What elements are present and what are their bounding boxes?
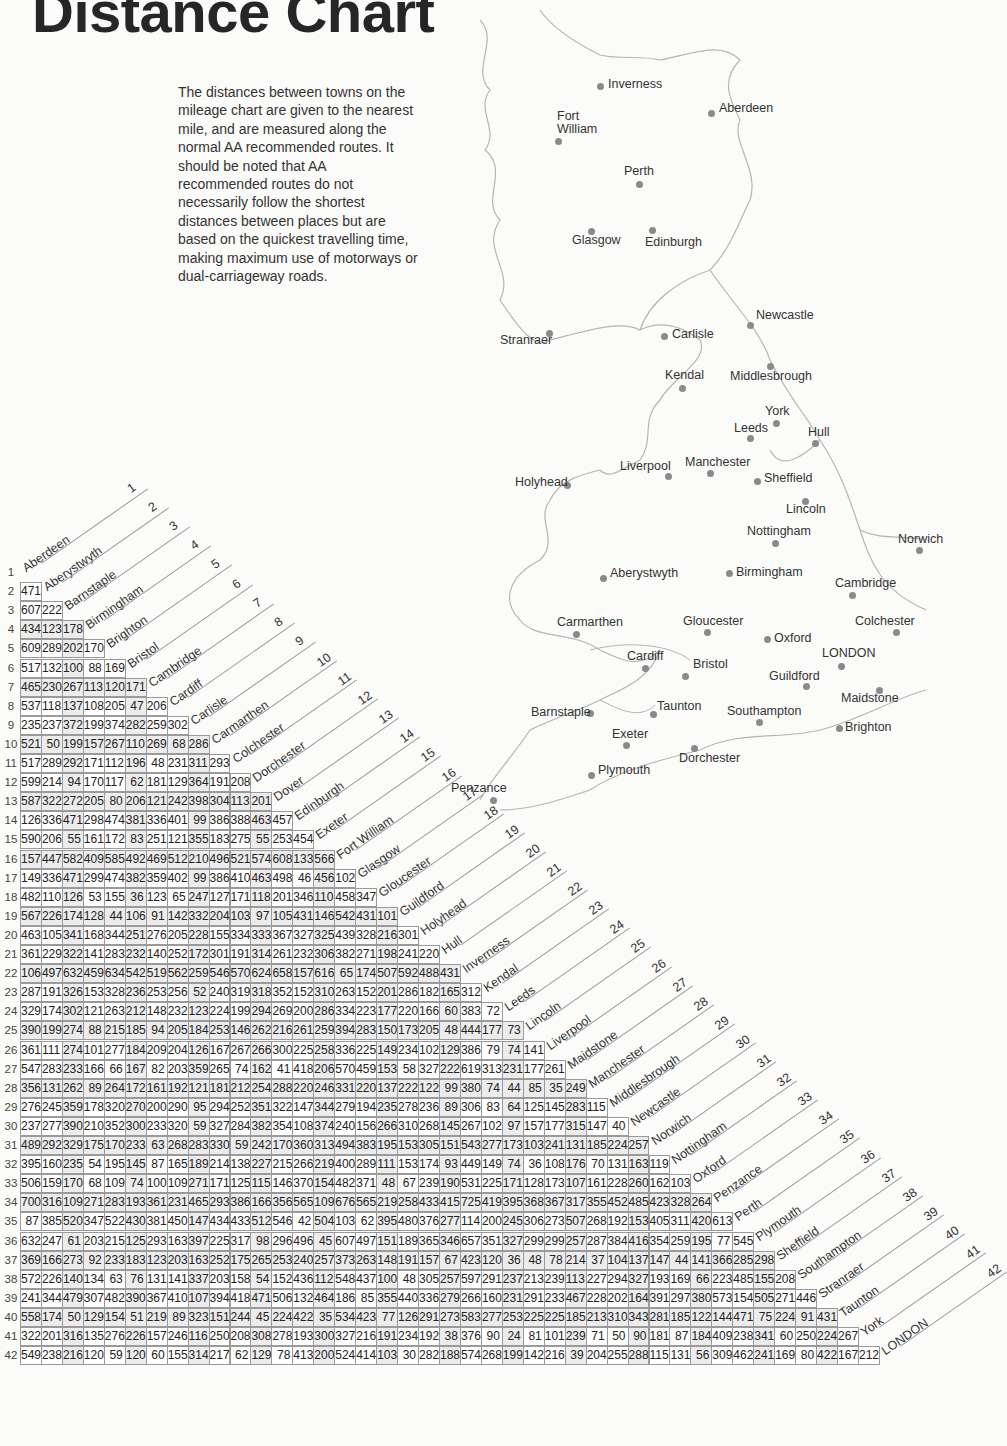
distance-cell: 77 [711, 1232, 733, 1251]
distance-cell: 574 [460, 1346, 482, 1365]
distance-cell: 59 [104, 1346, 126, 1365]
distance-cell: 332 [188, 907, 210, 926]
distance-cell: 44 [502, 1079, 524, 1098]
distance-cell: 68 [167, 735, 189, 754]
column-town-label: Kendal [481, 961, 521, 995]
distance-cell: 257 [565, 1232, 587, 1251]
distance-cell: 359 [62, 1098, 84, 1117]
distance-cell: 337 [188, 1270, 210, 1289]
distance-cell: 105 [271, 907, 293, 926]
distance-cell: 235 [376, 1098, 398, 1117]
distance-cell: 457 [271, 811, 293, 830]
town-marker-icon [650, 711, 657, 718]
column-number: 20 [523, 841, 542, 860]
distance-cell: 147 [649, 1251, 671, 1270]
distance-cell: 273 [62, 1251, 84, 1270]
distance-cell: 64 [502, 1098, 524, 1117]
row-number: 37 [2, 1251, 20, 1270]
column-town-label: Leeds [502, 983, 538, 1014]
distance-cell: 199 [62, 735, 84, 754]
distance-cell: 224 [774, 1308, 796, 1327]
header-divider [900, 1272, 1007, 1347]
column-number: 30 [733, 1032, 752, 1051]
distance-cell: 193 [292, 1327, 314, 1346]
distance-cell: 215 [104, 1232, 126, 1251]
distance-cell: 320 [167, 1117, 189, 1136]
distance-cell: 220 [292, 1079, 314, 1098]
distance-cell: 252 [230, 1098, 252, 1117]
distance-cell: 322 [62, 945, 84, 964]
distance-cell: 347 [83, 1212, 105, 1231]
distance-cell: 298 [753, 1251, 775, 1270]
distance-cell: 288 [271, 1079, 293, 1098]
row-number: 40 [2, 1308, 20, 1327]
distance-cell: 334 [334, 1002, 356, 1021]
distance-cell: 113 [83, 678, 105, 697]
distance-cell: 316 [62, 1327, 84, 1346]
distance-cell: 94 [62, 773, 84, 792]
distance-cell: 198 [376, 945, 398, 964]
distance-cell: 416 [628, 1232, 650, 1251]
distance-cell: 152 [271, 1270, 293, 1289]
distance-cell: 154 [732, 1289, 754, 1308]
distance-cell: 471 [62, 869, 84, 888]
town-marker-icon [726, 570, 733, 577]
header-divider [292, 718, 399, 793]
distance-cell: 109 [104, 1174, 126, 1193]
distance-cell: 113 [565, 1270, 587, 1289]
distance-cell: 275 [230, 830, 252, 849]
distance-cell: 658 [271, 964, 293, 983]
distance-cell: 247 [41, 1232, 63, 1251]
distance-cell: 166 [83, 1060, 105, 1079]
distance-cell: 241 [20, 1289, 42, 1308]
distance-cell: 216 [271, 1021, 293, 1040]
row-number: 33 [2, 1174, 20, 1193]
distance-cell: 423 [649, 1193, 671, 1212]
distance-cell: 173 [397, 1021, 419, 1040]
distance-cell: 214 [41, 773, 63, 792]
distance-cell: 299 [523, 1232, 545, 1251]
distance-cell: 219 [376, 1193, 398, 1212]
distance-cell: 155 [104, 888, 126, 907]
distance-cell: 201 [271, 888, 293, 907]
town-marker-icon [555, 138, 562, 145]
distance-cell: 242 [250, 1136, 272, 1155]
distance-cell: 50 [41, 735, 63, 754]
distance-cell: 62 [355, 1212, 377, 1231]
distance-cell: 105 [41, 926, 63, 945]
distance-cell: 216 [62, 1346, 84, 1365]
town-label: Guildford [769, 670, 820, 683]
column-town-label: Cardiff [167, 676, 205, 708]
row-number: 21 [2, 945, 20, 964]
distance-cell: 234 [397, 1327, 419, 1346]
distance-cell: 203 [209, 1270, 231, 1289]
distance-cell: 380 [460, 1079, 482, 1098]
distance-cell: 99 [188, 869, 210, 888]
distance-cell: 216 [544, 1346, 566, 1365]
distance-cell: 152 [292, 983, 314, 1002]
distance-cell: 87 [146, 1155, 168, 1174]
distance-cell: 266 [460, 1289, 482, 1308]
column-number: 40 [942, 1223, 961, 1242]
row-number: 5 [2, 639, 20, 658]
distance-cell: 155 [209, 926, 231, 945]
distance-cell: 103 [376, 1346, 398, 1365]
distance-cell: 232 [125, 945, 147, 964]
distance-cell: 334 [230, 926, 252, 945]
row-number: 8 [2, 697, 20, 716]
distance-cell: 177 [544, 1117, 566, 1136]
distance-cell: 229 [41, 945, 63, 964]
distance-cell: 253 [146, 983, 168, 1002]
distance-cell: 512 [167, 850, 189, 869]
distance-cell: 543 [460, 1136, 482, 1155]
town-label: Aberystwyth [610, 567, 678, 580]
distance-cell: 607 [20, 601, 42, 620]
distance-cell: 87 [669, 1327, 691, 1346]
distance-cell: 102 [334, 869, 356, 888]
distance-cell: 81 [523, 1327, 545, 1346]
distance-cell: 386 [230, 1193, 252, 1212]
distance-cell: 314 [188, 1346, 210, 1365]
distance-cell: 204 [586, 1346, 608, 1365]
distance-cell: 137 [62, 697, 84, 716]
distance-cell: 289 [355, 1155, 377, 1174]
